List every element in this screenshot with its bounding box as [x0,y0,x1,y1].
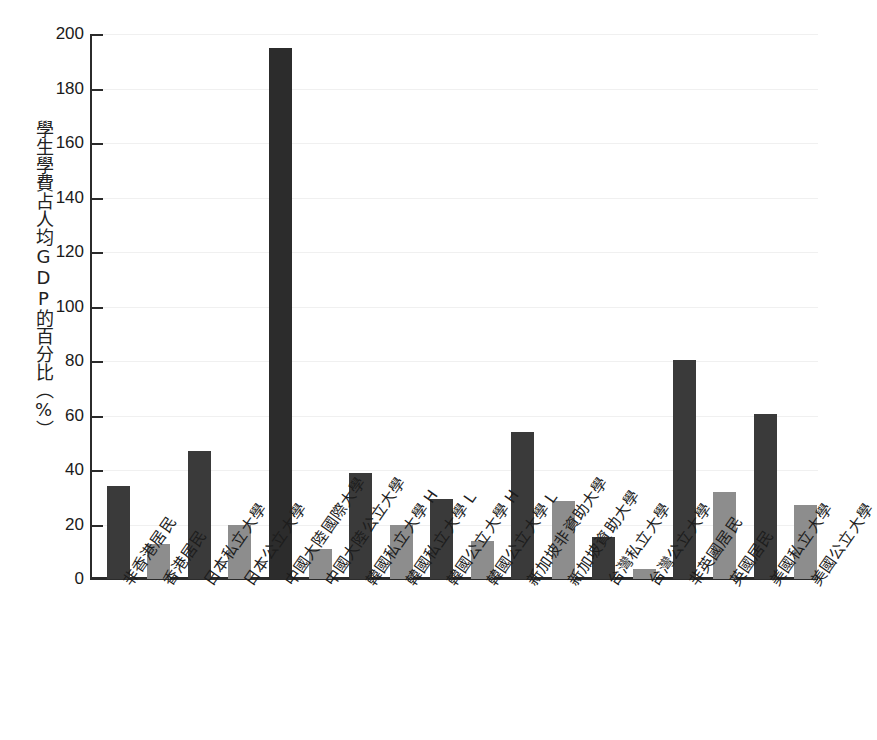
bar [107,486,130,579]
y-axis-tick-label: 140 [38,188,84,208]
y-axis-tick-label: 40 [38,460,84,480]
y-axis-tick-label: 180 [38,79,84,99]
bars-container [90,34,818,579]
y-axis-tick-label: 120 [38,242,84,262]
y-axis-tick-label: 20 [38,515,84,535]
bar [269,48,292,579]
x-axis-tick-labels: 非香港居民香港居民日本私立大學日本公立大學中國大陸國際大學中國大陸公立大學韓國私… [90,580,838,740]
y-axis-tick-labels: 020406080100120140160180200 [32,0,84,740]
y-axis-tick-label: 100 [38,297,84,317]
y-axis-tick-label: 160 [38,133,84,153]
y-axis-tick-label: 80 [38,351,84,371]
y-axis-tick-label: 60 [38,406,84,426]
y-axis-tick-label: 0 [38,569,84,589]
y-axis-tick-label: 200 [38,24,84,44]
plot-area [90,34,818,578]
